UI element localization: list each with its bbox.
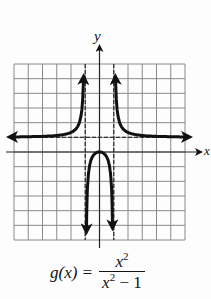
fraction: x2 x2 − 1 [99,252,145,293]
numerator: x2 [111,252,132,271]
y-axis-label: y [94,28,101,45]
left-branch [14,77,84,137]
formula-lhs: g(x) = [50,263,93,283]
right-branch [115,77,185,137]
function-formula: g(x) = x2 x2 − 1 [50,252,145,293]
denominator: x2 − 1 [99,271,145,293]
axes [6,46,201,248]
x-axis-label: x [204,143,210,159]
